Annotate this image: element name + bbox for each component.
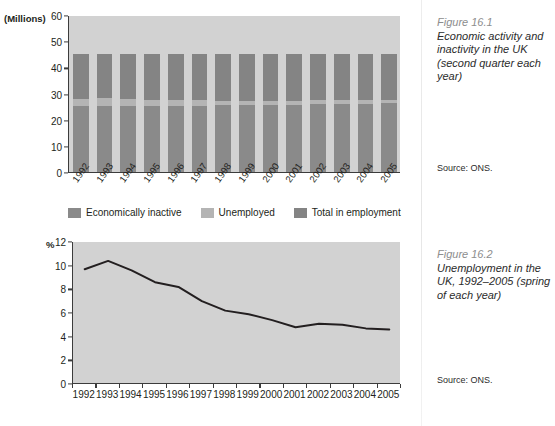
bar-2003 <box>334 54 350 172</box>
line-chart-x-label-1997: 1997 <box>190 389 212 400</box>
bar-segment-total-in-employment-1994 <box>120 54 136 98</box>
bar-segment-total-in-employment-1998 <box>215 54 231 100</box>
line-chart-x-tickmark-2004 <box>353 384 354 388</box>
figure-16-1-bar-chart: (Millions) 0102030405060 199219931994199… <box>0 0 420 232</box>
bar-segment-unemployed-2000 <box>263 101 279 105</box>
bar-segment-unemployed-1995 <box>144 100 160 106</box>
bar-segment-total-in-employment-1992 <box>73 54 89 98</box>
line-chart-x-label-1995: 1995 <box>143 389 165 400</box>
bar-chart-legend: Economically inactiveUnemployedTotal in … <box>68 207 420 218</box>
line-chart-x-tickmark-1994 <box>119 384 120 388</box>
bar-segment-total-in-employment-2000 <box>263 54 279 100</box>
bar-chart-y-tickmark-30 <box>64 94 68 95</box>
bar-segment-unemployed-1994 <box>120 99 136 106</box>
bar-1999 <box>239 54 255 172</box>
line-chart-x-label-1993: 1993 <box>96 389 118 400</box>
line-chart-x-label-2003: 2003 <box>330 389 352 400</box>
legend-swatch-icon-1 <box>201 208 214 218</box>
bar-segment-total-in-employment-2003 <box>334 54 350 100</box>
bar-segment-total-in-employment-1993 <box>97 54 113 98</box>
bar-2002 <box>310 54 326 172</box>
line-chart-y-tick-4: 4 <box>44 331 66 342</box>
line-chart-x-label-2000: 2000 <box>260 389 282 400</box>
bar-segment-unemployed-2005 <box>381 100 397 104</box>
figure-16-2-caption-number: Figure 16.2 <box>437 248 555 262</box>
line-chart-x-tickmark-1995 <box>142 384 143 388</box>
bar-1998 <box>215 54 231 172</box>
legend-label: Economically inactive <box>86 207 182 218</box>
bar-segment-unemployed-1993 <box>97 98 113 106</box>
line-chart-y-tickmark-12 <box>68 241 72 242</box>
legend-item-total-in-employment: Total in employment <box>294 207 401 218</box>
bar-chart-y-tick-10: 10 <box>40 141 62 152</box>
line-chart-y-tick-8: 8 <box>44 284 66 295</box>
figure-16-1-caption-text: Economic activity and inactivity in the … <box>437 30 555 84</box>
bar-2000 <box>263 54 279 172</box>
line-chart-x-tickmark-2000 <box>259 384 260 388</box>
bar-2004 <box>358 54 374 172</box>
bar-segment-unemployed-1996 <box>168 100 184 106</box>
line-chart-x-tickmark-1997 <box>189 384 190 388</box>
line-chart-x-tickmark-1993 <box>95 384 96 388</box>
bar-segment-total-in-employment-2005 <box>381 54 397 100</box>
line-chart-y-tick-10: 10 <box>44 260 66 271</box>
line-chart-x-label-2004: 2004 <box>354 389 376 400</box>
bar-segment-total-in-employment-1999 <box>239 54 255 100</box>
bar-chart-y-tick-30: 30 <box>40 89 62 100</box>
bar-chart-y-tickmark-50 <box>64 42 68 43</box>
bar-series-container <box>69 16 400 172</box>
bar-2005 <box>381 54 397 172</box>
line-chart-x-label-1996: 1996 <box>166 389 188 400</box>
line-chart-x-tickmark-end <box>400 384 401 388</box>
line-chart-y-tick-6: 6 <box>44 308 66 319</box>
line-chart-y-tickmark-4 <box>68 336 72 337</box>
bar-chart-y-tick-40: 40 <box>40 63 62 74</box>
margin-rule <box>421 0 422 426</box>
line-chart-y-tick-0: 0 <box>44 379 66 390</box>
bar-segment-total-in-employment-1996 <box>168 54 184 100</box>
line-chart-y-tick-2: 2 <box>44 355 66 366</box>
bar-chart-y-tick-50: 50 <box>40 37 62 48</box>
figure-16-2-caption-text: Unemployment in the UK, 1992–2005 (sprin… <box>437 262 555 303</box>
line-chart-y-tickmark-10 <box>68 265 72 266</box>
line-chart-x-tickmark-1992 <box>72 384 73 388</box>
legend-label: Total in employment <box>312 207 401 218</box>
bar-chart-y-tick-60: 60 <box>40 11 62 22</box>
bar-segment-total-in-employment-2002 <box>310 54 326 100</box>
legend-item-economically-inactive: Economically inactive <box>68 207 182 218</box>
bar-segment-unemployed-1997 <box>192 100 208 105</box>
figure-16-2-caption: Figure 16.2 Unemployment in the UK, 1992… <box>437 248 555 302</box>
bar-chart-y-tickmark-10 <box>64 146 68 147</box>
line-chart-x-tickmark-2001 <box>283 384 284 388</box>
bar-1995 <box>144 54 160 172</box>
line-chart-x-tickmark-2002 <box>306 384 307 388</box>
line-chart-y-tickmark-2 <box>68 360 72 361</box>
line-chart-plot-area <box>72 242 400 384</box>
line-chart-x-label-2001: 2001 <box>283 389 305 400</box>
figure-16-2-line-chart: % 024681012 1992199319941995199619971998… <box>0 234 420 426</box>
unemployment-line-path <box>73 242 401 384</box>
bar-chart-plot-area <box>68 16 400 173</box>
bar-1993 <box>97 54 113 172</box>
figure-16-1-source: Source: ONS. <box>437 163 493 173</box>
bar-segment-unemployed-1999 <box>239 101 255 105</box>
bar-segment-unemployed-1998 <box>215 101 231 106</box>
line-chart-y-tick-12: 12 <box>44 237 66 248</box>
bar-chart-y-tick-20: 20 <box>40 115 62 126</box>
bar-1996 <box>168 54 184 172</box>
line-chart-x-label-1998: 1998 <box>213 389 235 400</box>
line-chart-y-tickmark-8 <box>68 289 72 290</box>
line-chart-x-label-1999: 1999 <box>237 389 259 400</box>
bar-2001 <box>286 54 302 172</box>
line-chart-x-label-1994: 1994 <box>119 389 141 400</box>
bar-segment-total-in-employment-1997 <box>192 54 208 100</box>
bar-chart-y-tickmark-0 <box>64 172 68 173</box>
legend-label: Unemployed <box>219 207 275 218</box>
bar-segment-unemployed-2004 <box>358 100 374 104</box>
bar-chart-y-tickmark-40 <box>64 68 68 69</box>
bar-segment-total-in-employment-2004 <box>358 54 374 100</box>
bar-segment-total-in-employment-2001 <box>286 54 302 101</box>
line-chart-x-tickmark-2005 <box>377 384 378 388</box>
legend-item-unemployed: Unemployed <box>201 207 275 218</box>
bar-segment-unemployed-2003 <box>334 100 350 104</box>
